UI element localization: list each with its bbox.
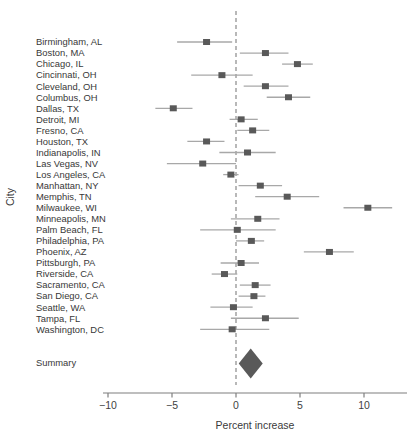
city-label: Milwaukee, WI xyxy=(36,202,97,213)
estimate-marker xyxy=(170,105,177,111)
city-label: Seattle, WA xyxy=(36,302,86,313)
city-label: Houston, TX xyxy=(36,136,89,147)
city-label: Sacramento, CA xyxy=(36,279,106,290)
estimate-marker xyxy=(262,315,269,321)
city-label: Columbus, OH xyxy=(36,92,97,103)
y-axis-title: City xyxy=(5,188,16,206)
estimate-marker xyxy=(221,271,228,277)
summary-label: Summary xyxy=(36,358,76,367)
city-label: Philadelphia, PA xyxy=(36,235,105,246)
estimate-marker xyxy=(262,83,269,89)
x-axis-tick-label: 0 xyxy=(233,399,239,411)
city-label: Chicago, IL xyxy=(36,58,83,69)
estimate-marker xyxy=(262,50,269,56)
city-label: San Diego, CA xyxy=(36,290,99,301)
x-axis-tick-label: 10 xyxy=(358,399,370,411)
estimate-marker xyxy=(218,72,225,78)
city-label: Los Angeles, CA xyxy=(36,169,106,180)
x-axis-tick-label: 5 xyxy=(297,399,303,411)
estimate-marker xyxy=(203,39,210,45)
city-label: Memphis, TN xyxy=(36,191,92,202)
estimate-marker xyxy=(230,304,237,310)
estimate-marker xyxy=(252,282,259,288)
estimate-marker xyxy=(249,127,256,133)
estimate-marker xyxy=(234,227,241,233)
estimate-marker xyxy=(285,94,292,100)
x-axis-tick-label: −10 xyxy=(99,399,117,411)
estimate-marker xyxy=(294,61,301,67)
estimate-marker xyxy=(244,150,251,156)
city-label: Fresno, CA xyxy=(36,125,84,136)
city-label: Riverside, CA xyxy=(36,268,94,279)
city-label: Pittsburgh, PA xyxy=(36,257,96,268)
estimate-marker xyxy=(248,238,255,244)
estimate-marker xyxy=(238,116,245,122)
estimate-marker xyxy=(326,249,333,255)
city-label: Birmingham, AL xyxy=(36,36,102,47)
estimate-marker xyxy=(238,260,245,266)
city-label: Dallas, TX xyxy=(36,103,80,114)
city-label: Phoenix, AZ xyxy=(36,246,87,257)
x-axis-tick-label: −5 xyxy=(166,399,178,411)
estimate-marker xyxy=(250,293,257,299)
city-label: Manhattan, NY xyxy=(36,180,99,191)
forest-plot-figure: Birmingham, ALBoston, MAChicago, ILCinci… xyxy=(0,0,419,448)
estimate-marker xyxy=(203,138,210,144)
city-label: Cincinnati, OH xyxy=(36,69,96,80)
city-label: Las Vegas, NV xyxy=(36,158,99,169)
city-label: Indianapolis, IN xyxy=(36,147,101,158)
city-label: Palm Beach, FL xyxy=(36,224,103,235)
estimate-marker xyxy=(199,161,206,167)
city-label: Cleveland, OH xyxy=(36,81,97,92)
estimate-marker xyxy=(364,205,371,211)
estimate-marker xyxy=(257,183,264,189)
city-label: Tampa, FL xyxy=(36,313,80,324)
city-label: Minneapolis, MN xyxy=(36,213,106,224)
forest-plot-canvas: Birmingham, ALBoston, MAChicago, ILCinci… xyxy=(0,0,419,448)
city-label: Washington, DC xyxy=(36,324,104,335)
estimate-marker xyxy=(254,216,261,222)
city-label: Boston, MA xyxy=(36,47,85,58)
estimate-marker xyxy=(229,326,236,332)
estimate-marker xyxy=(284,194,291,200)
x-axis-title: Percent increase xyxy=(216,420,295,431)
city-label: Detroit, MI xyxy=(36,114,79,125)
summary-diamond xyxy=(239,349,263,379)
estimate-marker xyxy=(227,172,234,178)
